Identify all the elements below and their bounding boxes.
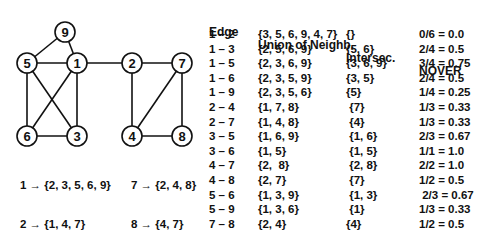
edge-cell: 1 – 2 [209,28,235,41]
adjacency-entry: 7 → {2, 4, 8} [131,179,196,192]
edge-cell: 3 – 6 [209,145,235,158]
intersection-cell: {1} [346,203,365,216]
nover-cell: 1/2 = 0.5 [419,218,464,231]
graph-node-9: 9 [55,22,75,42]
graph-node-1: 1 [67,53,87,73]
graph-node-5: 5 [17,53,37,73]
intersection-cell: {3, 5} [346,72,374,85]
adjacency-entry: 1 → {2, 3, 5, 6, 9} [20,179,111,192]
nover-cell: 1/1 = 1.0 [419,145,464,158]
nover-cell: 1/2 = 0.5 [419,174,464,187]
graph-diagram: 951632748 [0,0,205,150]
union-cell: {2, 3, 5, 6} [258,86,312,99]
edge-cell: 1 – 3 [209,43,235,56]
union-cell: {2, 4} [258,218,286,231]
nover-cell: 2/3 = 0.67 [419,189,474,202]
graph-node-7: 7 [172,53,192,73]
graph-edge-7-4 [132,63,182,136]
svg-text:3: 3 [73,129,80,144]
nover-cell: 2/4 = 0.5 [419,43,464,56]
nover-cell: 1/3 = 0.33 [419,116,470,129]
adjacency-entry: 2 → {1, 4, 7} [20,218,111,231]
intersection-cell: {7} [346,101,365,114]
nover-cell: 0/6 = 0.0 [419,28,464,41]
graph-node-3: 3 [67,126,87,146]
union-cell: {1, 4, 8} [258,116,299,129]
graph-node-8: 8 [172,126,192,146]
union-cell: {2, 3, 6, 9} [258,57,312,70]
edge-cell: 2 – 7 [209,116,235,129]
nover-cell: 2/2 = 1.0 [419,159,464,172]
intersection-cell: {2, 8} [346,159,377,172]
intersection-cell: {1, 5} [346,145,377,158]
svg-text:1: 1 [73,56,80,71]
union-cell: {1, 3, 6} [258,203,299,216]
intersection-cell: {1, 6} [346,130,377,143]
svg-text:5: 5 [23,56,30,71]
intersection-cell: {3, 6, 9} [346,57,387,70]
nover-cell: 1/3 = 0.33 [419,101,470,114]
table-header: Edge Union of Neighb. Intersec. NOVER [209,13,222,26]
svg-text:2: 2 [128,56,135,71]
edge-cell: 1 – 6 [209,72,235,85]
edge-cell: 5 – 9 [209,203,235,216]
svg-text:8: 8 [178,129,185,144]
union-cell: {1, 6, 9} [258,130,299,143]
edge-cell: 1 – 5 [209,57,235,70]
graph-node-2: 2 [122,53,142,73]
union-cell: {3, 5, 6, 9, 4, 7} [258,28,337,41]
edge-cell: 4 – 7 [209,159,235,172]
graph-node-4: 4 [122,126,142,146]
svg-text:7: 7 [178,56,185,71]
edge-cell: 5 – 6 [209,189,235,202]
union-cell: {2, 7} [258,174,286,187]
edge-cell: 1 – 9 [209,86,235,99]
edge-cell: 4 – 8 [209,174,235,187]
union-cell: {1, 7, 8} [258,101,299,114]
union-cell: {1, 5} [258,145,286,158]
intersection-cell: {1, 3} [346,189,377,202]
adjacency-entry: 8 → {4, 7} [131,218,196,231]
nover-cell: 2/3 = 0.67 [419,130,470,143]
intersection-cell: {7} [346,174,365,187]
svg-text:9: 9 [61,25,68,40]
intersection-cell: {} [346,28,355,41]
nover-cell: 1/3 = 0.33 [419,203,470,216]
union-cell: {2, 5, 6, 9} [258,43,312,56]
svg-text:4: 4 [128,129,136,144]
svg-text:6: 6 [23,129,30,144]
union-cell: {2, 8} [258,159,289,172]
edge-cell: 3 – 5 [209,130,235,143]
intersection-cell: {5} [346,86,361,99]
graph-node-6: 6 [17,126,37,146]
nover-cell: 3/4 = 0.75 [419,57,470,70]
nover-cell: 2/4 = 0.5 [419,72,464,85]
intersection-cell: {4} [346,116,365,129]
intersection-cell: {5, 6} [346,43,374,56]
union-cell: {1, 3, 9} [258,189,299,202]
union-cell: {2, 3, 5, 9} [258,72,312,85]
adjacency-list-col2: 7 → {2, 4, 8} 8 → {4, 7} 9 → {1, 5} [131,153,196,241]
intersection-cell: {4} [346,218,361,231]
edge-cell: 7 – 8 [209,218,235,231]
nover-cell: 1/4 = 0.25 [419,86,470,99]
edge-cell: 2 – 4 [209,101,235,114]
adjacency-list-col1: 1 → {2, 3, 5, 6, 9} 2 → {1, 4, 7} 3 → {1… [20,153,111,241]
